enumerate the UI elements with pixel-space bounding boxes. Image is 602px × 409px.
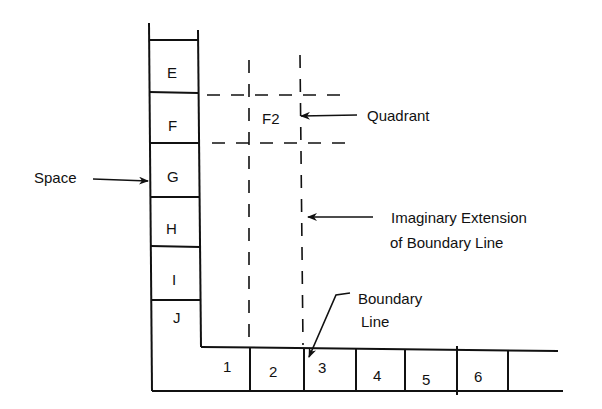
column-outer-line xyxy=(149,23,152,391)
space-label: Space xyxy=(34,169,77,186)
cell-label-5: 5 xyxy=(422,371,430,388)
arrow-right-icon xyxy=(93,179,148,181)
boundary-line-label-line1: Boundary xyxy=(358,290,423,307)
callout-boundary-line: Boundary Line xyxy=(309,290,423,357)
cell-label-6: 6 xyxy=(474,368,482,385)
boundary-line-label-line2: Line xyxy=(361,313,389,330)
cell-label-h: H xyxy=(166,220,177,237)
cell-label-g: G xyxy=(167,168,179,185)
grid-outline xyxy=(149,23,563,391)
imaginary-extension-label-line2: of Boundary Line xyxy=(390,234,503,251)
cell-label-e: E xyxy=(167,64,177,81)
row-cell-labels: 1 2 3 4 5 6 xyxy=(223,358,482,388)
quadrant-label-f2: F2 xyxy=(262,110,280,127)
cell-label-4: 4 xyxy=(373,367,381,384)
imaginary-extension-lines xyxy=(207,55,348,345)
column-cell-labels: E F G H I J xyxy=(166,64,181,326)
callout-imaginary-extension: Imaginary Extension of Boundary Line xyxy=(308,209,527,251)
row-inner-line xyxy=(201,347,558,351)
arrow-left-icon xyxy=(301,115,357,116)
vertical-extension-col2 xyxy=(300,55,303,345)
cell-label-1: 1 xyxy=(223,358,231,375)
cell-label-f: F xyxy=(168,117,177,134)
callout-space: Space xyxy=(34,169,148,186)
grid-boundary-diagram: E F G H I J 1 2 3 4 5 6 F2 Space Quadran… xyxy=(0,0,602,409)
callout-quadrant: Quadrant xyxy=(301,107,430,124)
imaginary-extension-label-line1: Imaginary Extension xyxy=(391,209,527,226)
cell-label-j: J xyxy=(173,309,181,326)
cell-label-3: 3 xyxy=(318,359,326,376)
quadrant-label: Quadrant xyxy=(367,107,430,124)
cell-label-i: I xyxy=(172,271,176,288)
cell-label-2: 2 xyxy=(269,363,277,380)
